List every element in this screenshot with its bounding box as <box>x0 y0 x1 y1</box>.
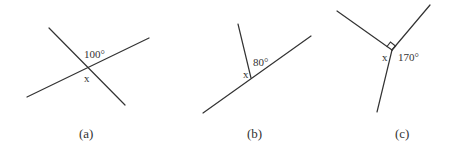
caption-b: (b) <box>247 126 262 141</box>
caption-a: (a) <box>79 126 93 141</box>
angle-label-given-a: 100° <box>84 48 105 60</box>
figure-b: 80° x (b) <box>203 24 311 141</box>
angle-label-given-b: 80° <box>253 56 268 68</box>
angle-label-given-c: 170° <box>398 51 419 63</box>
line-a2 <box>27 38 149 97</box>
line-a1 <box>49 28 125 105</box>
angle-diagrams: 100° x (a) 80° x (b) x 170° (c) <box>0 0 449 151</box>
line-c2 <box>392 5 430 50</box>
line-c1 <box>337 11 392 50</box>
figure-a: 100° x (a) <box>27 28 149 141</box>
angle-label-unknown-a: x <box>84 72 90 84</box>
figure-c: x 170° (c) <box>337 5 430 141</box>
caption-c: (c) <box>395 126 409 141</box>
angle-label-unknown-c: x <box>382 51 388 63</box>
line-b2 <box>203 36 311 113</box>
angle-label-unknown-b: x <box>243 68 249 80</box>
